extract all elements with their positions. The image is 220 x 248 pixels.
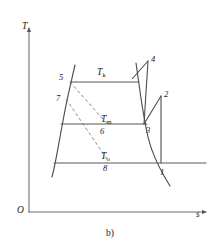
point-label-6: 6 — [100, 127, 104, 136]
isotherm-label-tm: Tm — [101, 115, 111, 125]
isotherm-to-subscript: o — [107, 155, 110, 162]
point-label-8: 8 — [103, 164, 107, 173]
point-label-1: 1 — [160, 168, 164, 177]
isotherm-label-tk: Tk — [97, 68, 106, 78]
point-label-4: 4 — [151, 55, 155, 64]
process-line-4-to-3 — [144, 61, 148, 124]
x-axis-label: s — [196, 210, 200, 220]
point-label-2: 2 — [164, 90, 168, 99]
process-line-3-to-2 — [144, 96, 161, 124]
isotherm-tk-letter: T — [97, 67, 102, 77]
isotherm-label-to: To — [101, 152, 110, 162]
figure-caption: b) — [0, 228, 220, 238]
isotherm-tm-subscript: m — [107, 118, 112, 125]
y-axis-label: T — [22, 22, 27, 32]
ts-diagram-figure: T s O Tk Tm To 1 2 3 4 5 6 7 8 b) — [0, 0, 220, 248]
origin-label: O — [17, 206, 24, 216]
process-line-4-to-dome — [133, 61, 149, 79]
point-label-5: 5 — [59, 73, 63, 82]
isotherm-to-letter: T — [101, 151, 106, 161]
point-label-7: 7 — [56, 94, 60, 103]
isotherm-tm-letter: T — [101, 114, 106, 124]
point-label-3: 3 — [146, 126, 150, 135]
isotherm-tk-subscript: k — [103, 71, 106, 78]
